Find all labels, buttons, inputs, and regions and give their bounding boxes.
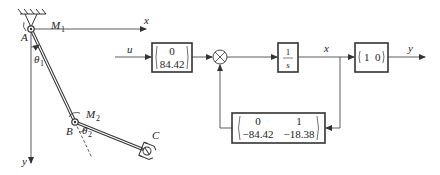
output-label: y: [407, 42, 413, 54]
input-matrix-row1: 0: [169, 45, 175, 57]
state-label: x: [323, 42, 329, 54]
input-label: u: [127, 43, 133, 55]
feedback-matrix-r2c2: −18.38: [284, 128, 315, 140]
output-matrix-c2: 0: [375, 51, 381, 63]
joint-a-label: A: [20, 31, 28, 43]
output-matrix-block: [355, 43, 388, 72]
figure: x y A B C: [0, 0, 440, 175]
y-axis-label: y: [21, 155, 27, 167]
feedback-matrix-r1c1: 0: [255, 115, 261, 127]
moment-2-label: M: [85, 108, 96, 120]
moment-1-arrow-icon: [23, 22, 26, 31]
moment-1-subscript: 1: [61, 25, 65, 34]
joint-b-label: B: [66, 125, 73, 137]
gripper-icon: [139, 142, 157, 160]
input-matrix-row2: 84.42: [160, 58, 185, 70]
feedback-path-in: [326, 57, 340, 128]
x-axis-label: x: [143, 14, 149, 26]
end-effector-label: C: [152, 129, 160, 141]
theta-2-subscript: 2: [88, 130, 92, 139]
state-space-block-diagram: u 0 84.42 1 s x 1 0 y: [115, 42, 425, 143]
theta-1-subscript: 1: [40, 59, 44, 68]
manipulator-mechanism: x y A B C: [18, 9, 160, 167]
moment-2-subscript: 2: [96, 114, 100, 123]
feedback-matrix-r1c2: 1: [296, 115, 302, 127]
integrator-numerator: 1: [286, 47, 291, 57]
summing-junction-icon: [213, 50, 227, 64]
moment-1-label: M: [50, 19, 61, 31]
ground-support-icon: [18, 9, 46, 27]
feedback-path-out: [220, 65, 232, 128]
integrator-denominator: s: [286, 60, 290, 70]
output-matrix-c1: 1: [364, 51, 370, 63]
feedback-matrix-r2c1: −84.42: [243, 128, 274, 140]
